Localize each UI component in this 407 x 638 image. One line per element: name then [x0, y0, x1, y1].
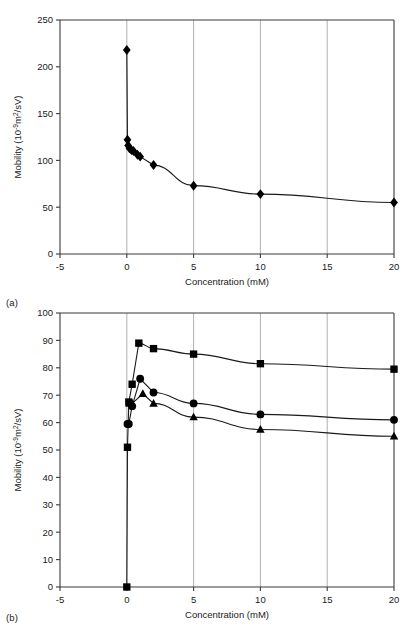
- x-tick-label: 10: [255, 594, 266, 605]
- y-tick-label: 70: [42, 390, 53, 401]
- x-tick-label: 20: [389, 261, 400, 272]
- x-tick-label: 5: [191, 261, 196, 272]
- chart-b-canvas: 0102030405060708090100-505101520Concentr…: [0, 310, 407, 638]
- x-tick-label: 15: [322, 594, 333, 605]
- x-tick-label: -5: [56, 594, 64, 605]
- y-tick-label: 50: [42, 202, 53, 213]
- y-tick-label: 250: [37, 14, 53, 25]
- data-point-square: [135, 339, 142, 346]
- data-point-square: [390, 365, 397, 372]
- y-tick-label: 80: [42, 362, 53, 373]
- y-axis-title: Mobility (10-9m2/sV): [12, 409, 23, 492]
- x-tick-label: 0: [124, 261, 129, 272]
- figure-container: 050100150200250-505101520Concentration (…: [0, 0, 407, 638]
- y-axis-title-text: Mobility (10-9m2/sV): [12, 409, 23, 492]
- chart-a-canvas: 050100150200250-505101520Concentration (…: [0, 0, 407, 318]
- x-axis-title: Concentration (mM): [185, 276, 269, 287]
- panel-b-label: (b): [6, 612, 18, 623]
- y-axis-title: Mobility (10-9m2/sV): [12, 96, 23, 179]
- data-point-diamond: [390, 198, 398, 208]
- y-tick-label: 20: [42, 527, 53, 538]
- data-point-circle: [125, 420, 133, 428]
- data-point-square: [124, 444, 131, 451]
- chart-panel-b: 0102030405060708090100-505101520Concentr…: [0, 310, 407, 638]
- y-tick-label: 150: [37, 108, 53, 119]
- data-point-diamond: [190, 181, 198, 191]
- data-point-triangle: [256, 425, 265, 433]
- y-axis-title-text: Mobility (10-9m2/sV): [12, 96, 23, 179]
- x-tick-label: -5: [56, 261, 64, 272]
- y-tick-label: 200: [37, 61, 53, 72]
- data-point-circle: [256, 410, 264, 418]
- y-tick-label: 10: [42, 554, 53, 565]
- data-point-square: [257, 360, 264, 367]
- y-tick-label: 40: [42, 472, 53, 483]
- data-point-square: [150, 345, 157, 352]
- data-point-circle: [150, 389, 158, 397]
- x-axis-title: Concentration (mM): [185, 609, 269, 620]
- x-tick-label: 20: [389, 594, 400, 605]
- data-point-diamond: [123, 45, 131, 55]
- y-tick-label: 0: [48, 581, 53, 592]
- data-point-diamond: [257, 189, 265, 199]
- data-point-circle: [390, 416, 398, 424]
- data-point-triangle: [390, 432, 399, 440]
- x-tick-label: 0: [124, 594, 129, 605]
- x-tick-label: 15: [322, 261, 333, 272]
- chart-panel-a: 050100150200250-505101520Concentration (…: [0, 0, 407, 318]
- data-point-triangle: [139, 389, 148, 397]
- panel-a-label: (a): [6, 297, 18, 308]
- data-point-diamond: [150, 160, 158, 170]
- data-point-square: [128, 381, 135, 388]
- data-point-circle: [190, 400, 198, 408]
- x-tick-label: 5: [191, 594, 196, 605]
- y-tick-label: 100: [37, 155, 53, 166]
- data-point-square: [123, 583, 130, 590]
- y-tick-label: 60: [42, 417, 53, 428]
- y-tick-label: 90: [42, 335, 53, 346]
- y-tick-label: 0: [48, 248, 53, 259]
- y-tick-label: 30: [42, 499, 53, 510]
- data-point-circle: [136, 375, 144, 383]
- y-tick-label: 50: [42, 444, 53, 455]
- data-point-square: [190, 350, 197, 357]
- y-tick-label: 100: [37, 310, 53, 318]
- x-tick-label: 10: [255, 261, 266, 272]
